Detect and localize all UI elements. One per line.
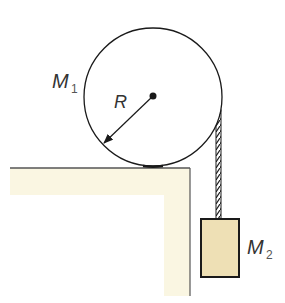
physics-diagram: M 1 R M 2 bbox=[0, 0, 285, 303]
table-top-band bbox=[10, 168, 190, 195]
cylinder bbox=[84, 28, 222, 167]
table bbox=[10, 168, 190, 296]
table-leg-band bbox=[164, 168, 190, 296]
rope bbox=[216, 110, 221, 220]
contact-point bbox=[143, 166, 163, 167]
hanging-block bbox=[201, 219, 239, 277]
radius-label: R bbox=[114, 92, 127, 112]
m1-label: M bbox=[52, 70, 69, 92]
m2-label: M bbox=[247, 236, 264, 258]
m2-subscript: 2 bbox=[266, 248, 273, 262]
m1-subscript: 1 bbox=[71, 82, 78, 96]
